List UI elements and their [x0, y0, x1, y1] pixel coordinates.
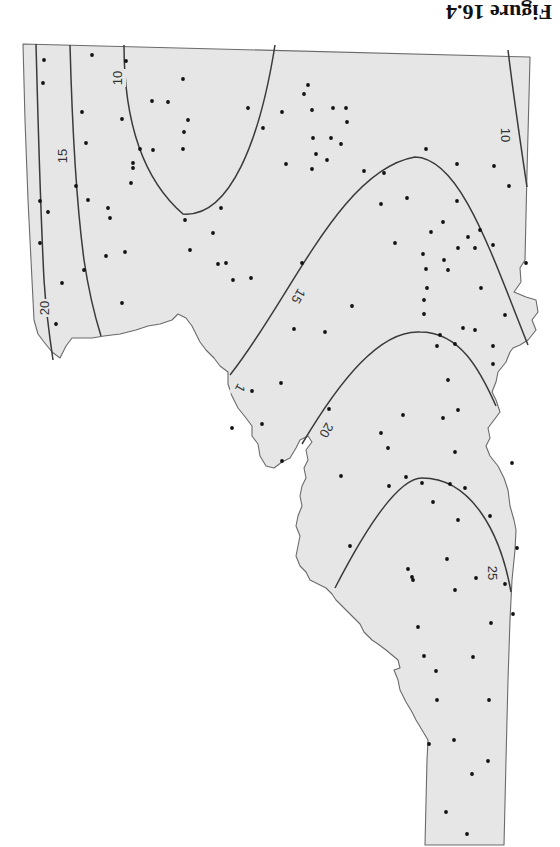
sample-point: [442, 258, 446, 262]
sample-point: [219, 206, 223, 210]
sample-point: [280, 110, 284, 114]
sample-point: [260, 422, 264, 426]
sample-point: [465, 832, 469, 836]
sample-point: [491, 243, 495, 247]
sample-point: [54, 322, 58, 326]
sample-point: [510, 461, 514, 465]
sample-point: [344, 106, 348, 110]
sample-point: [38, 199, 42, 203]
sample-point: [186, 118, 190, 122]
sample-point: [424, 147, 428, 151]
sample-point: [108, 216, 112, 220]
sample-point: [224, 261, 228, 265]
sample-point: [404, 475, 408, 479]
sample-point: [183, 218, 187, 222]
sample-point: [455, 162, 459, 166]
sample-point: [452, 738, 456, 742]
sample-point: [249, 276, 253, 280]
contour-label-c20-left: 20: [37, 301, 52, 315]
sample-point: [524, 261, 528, 265]
sample-point: [479, 286, 483, 290]
sample-point: [386, 446, 390, 450]
sample-point: [261, 126, 265, 130]
sample-point: [491, 344, 495, 348]
sample-point: [406, 567, 410, 571]
sample-point: [438, 333, 442, 337]
sample-point: [151, 148, 155, 152]
sample-point: [456, 246, 460, 250]
sample-point: [131, 166, 135, 170]
sample-point: [488, 514, 492, 518]
sample-point: [166, 100, 170, 104]
sample-point: [138, 147, 142, 151]
sample-point: [46, 210, 50, 214]
sample-point: [348, 544, 352, 548]
sample-point: [492, 164, 496, 168]
sample-point: [448, 482, 452, 486]
sample-point: [455, 199, 459, 203]
sample-point: [431, 500, 435, 504]
sample-point: [441, 220, 445, 224]
sample-point: [124, 59, 128, 63]
sample-point: [434, 669, 438, 673]
sample-point: [491, 362, 495, 366]
sample-point: [181, 147, 185, 151]
sample-point: [86, 198, 90, 202]
contour-map: 201510101512025: [0, 0, 560, 847]
sample-point: [329, 136, 333, 140]
sample-point: [331, 106, 335, 110]
sample-point: [230, 426, 234, 430]
sample-point: [80, 110, 84, 114]
sample-point: [129, 181, 133, 185]
sample-point: [411, 578, 415, 582]
sample-point: [446, 378, 450, 382]
sample-point: [362, 169, 366, 173]
sample-point: [131, 161, 135, 165]
sample-point: [339, 142, 343, 146]
sample-point: [446, 268, 450, 272]
sample-point: [444, 810, 448, 814]
sample-point: [325, 158, 329, 162]
sample-point: [507, 184, 511, 188]
sample-point: [387, 484, 391, 488]
contour-label-c10-right: 10: [498, 128, 513, 142]
sample-point: [401, 413, 405, 417]
sample-point: [453, 588, 457, 592]
sample-point: [489, 621, 493, 625]
sample-point: [456, 518, 460, 522]
sample-point: [435, 698, 439, 702]
sample-point: [420, 481, 424, 485]
sample-point: [471, 655, 475, 659]
sample-point: [302, 92, 306, 96]
sample-point: [182, 130, 186, 134]
sample-point: [463, 486, 467, 490]
sample-point: [345, 120, 349, 124]
sample-point: [284, 162, 288, 166]
sample-point: [41, 81, 45, 85]
sample-point: [456, 408, 460, 412]
sample-point: [441, 416, 445, 420]
sample-point: [425, 286, 429, 290]
contour-label-c15-left: 15: [55, 149, 70, 163]
sample-point: [84, 141, 88, 145]
sample-point: [487, 698, 491, 702]
sample-point: [350, 304, 354, 308]
sample-point: [74, 184, 78, 188]
sample-point: [279, 381, 283, 385]
sample-point: [339, 474, 343, 478]
sample-point: [327, 407, 331, 411]
sample-point: [466, 235, 470, 239]
sample-point: [82, 268, 86, 272]
sample-point: [292, 327, 296, 331]
sample-point: [453, 450, 457, 454]
sample-point: [38, 241, 42, 245]
sample-point: [123, 250, 127, 254]
sample-point: [421, 252, 425, 256]
sample-point: [503, 313, 507, 317]
sample-point: [382, 171, 386, 175]
sample-point: [429, 230, 433, 234]
sample-point: [453, 342, 457, 346]
sample-point: [503, 582, 507, 586]
sample-point: [474, 576, 478, 580]
sample-point: [120, 117, 124, 121]
